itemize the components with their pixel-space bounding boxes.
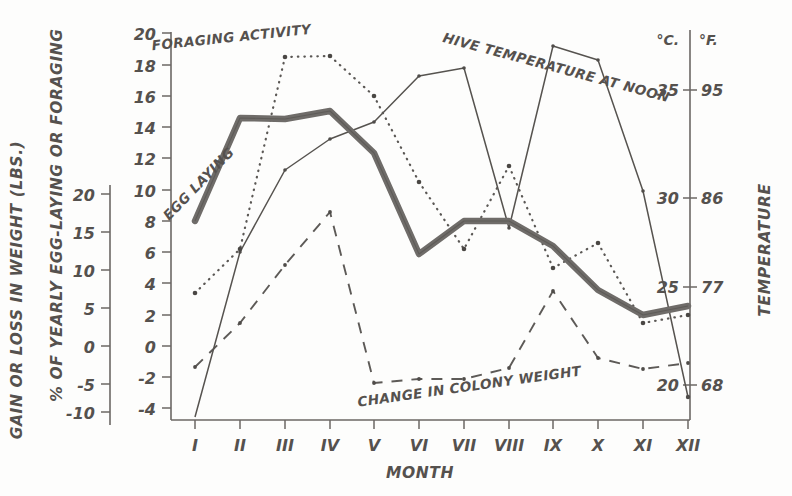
svg-text:14: 14 (134, 119, 156, 138)
svg-text:0: 0 (84, 338, 95, 357)
series-hive-temperature-at-noon (195, 44, 690, 417)
svg-text:II: II (234, 436, 246, 455)
axis-title-month: MONTH (386, 464, 454, 482)
svg-text:X: X (591, 436, 605, 455)
svg-text:10: 10 (73, 262, 95, 281)
svg-text:8: 8 (145, 213, 156, 232)
svg-text:III: III (276, 436, 294, 455)
series-label-change-in-colony-weight: CHANGE IN COLONY WEIGHT (356, 362, 583, 409)
fahrenheit-unit-label: °F. (699, 32, 718, 48)
chart-canvas: 20 18 16 14 12 10 8 6 4 2 0 -2 -4 20 15 … (0, 0, 792, 496)
lbs-axis-ticks (101, 194, 110, 412)
svg-text:VII: VII (452, 436, 476, 455)
svg-text:95: 95 (701, 81, 723, 100)
svg-text:V: V (368, 436, 382, 455)
svg-text:XII: XII (675, 436, 700, 455)
svg-text:I: I (192, 436, 198, 455)
series-label-hive-temperature: HIVE TEMPERATURE AT NOON (441, 29, 671, 105)
series-foraging-points (193, 54, 691, 326)
svg-text:30: 30 (657, 189, 679, 208)
lbs-tick-labels: 20 15 10 5 0 -5 -10 (66, 186, 95, 423)
svg-text:20: 20 (657, 376, 679, 395)
svg-text:12: 12 (134, 150, 156, 169)
svg-text:6: 6 (145, 244, 156, 263)
svg-text:-10: -10 (66, 404, 95, 423)
svg-text:86: 86 (701, 189, 723, 208)
svg-text:VIII: VIII (494, 436, 524, 455)
svg-text:68: 68 (701, 376, 723, 395)
svg-text:20: 20 (73, 186, 95, 205)
svg-text:-2: -2 (138, 369, 156, 388)
axis-title-temperature: TEMPERATURE (756, 183, 774, 316)
svg-text:16: 16 (134, 88, 156, 107)
chart-figure: 20 18 16 14 12 10 8 6 4 2 0 -2 -4 20 15 … (0, 0, 792, 496)
svg-text:-4: -4 (138, 400, 156, 419)
month-tick-labels: I II III IV V VI VII VIII IX X XI XII (192, 436, 700, 455)
fahrenheit-tick-labels: 95 86 77 68 (701, 81, 724, 395)
percent-tick-labels: 20 18 16 14 12 10 8 6 4 2 0 -2 -4 (134, 25, 156, 419)
series-egg-laying (195, 111, 688, 315)
axis-title-percent-yearly: % OF YEARLY EGG-LAYING OR FORAGING (48, 28, 66, 401)
celsius-unit-label: °C. (656, 32, 679, 48)
svg-text:-5: -5 (77, 376, 95, 395)
svg-text:15: 15 (73, 224, 95, 243)
svg-text:2: 2 (145, 307, 156, 326)
svg-text:5: 5 (84, 300, 95, 319)
series-foraging-activity (193, 54, 691, 326)
svg-text:25: 25 (657, 278, 679, 297)
series-label-foraging-activity: FORAGING ACTIVITY (151, 21, 313, 54)
svg-text:XI: XI (633, 436, 652, 455)
svg-text:IV: IV (321, 436, 341, 455)
svg-text:10: 10 (134, 182, 156, 201)
svg-text:VI: VI (410, 436, 428, 455)
axis-title-gain-or-loss: GAIN OR LOSS IN WEIGHT (LBS.) (8, 141, 26, 440)
svg-text:77: 77 (701, 278, 724, 297)
svg-text:18: 18 (134, 57, 156, 76)
svg-text:0: 0 (145, 338, 156, 357)
month-axis-ticks (195, 420, 688, 429)
svg-text:IX: IX (544, 436, 563, 455)
svg-text:4: 4 (144, 275, 156, 294)
celsius-tick-labels: 35 30 25 20 (657, 81, 679, 395)
